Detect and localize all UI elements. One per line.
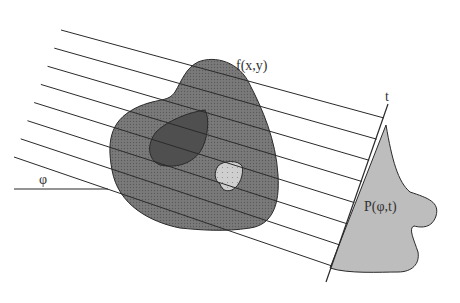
label-object-fxy: f(x,y) bbox=[236, 58, 268, 74]
label-axis-t: t bbox=[385, 89, 389, 104]
radon-projection-diagram: f(x,y) φ t P(φ,t) bbox=[0, 0, 460, 303]
label-projection-p: P(φ,t) bbox=[364, 199, 397, 215]
label-angle-phi: φ bbox=[39, 172, 47, 187]
